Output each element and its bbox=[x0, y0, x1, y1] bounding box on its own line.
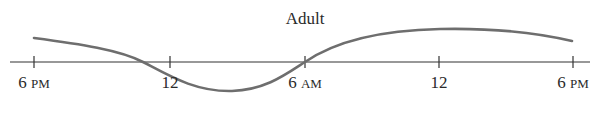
x-tick-labels: 6 PM 12 6 AM 12 6 PM bbox=[18, 73, 589, 92]
chart-title: Adult bbox=[286, 9, 325, 28]
tick-label-6pm-start: 6 PM bbox=[18, 73, 50, 92]
tick-label-noon: 12 bbox=[431, 73, 448, 92]
tick-label-6pm-end: 6 PM bbox=[557, 73, 589, 92]
tick-label-6am: 6 AM bbox=[288, 73, 322, 92]
circadian-chart: Adult 6 PM 12 6 AM 12 6 PM bbox=[0, 0, 602, 116]
tick-label-midnight: 12 bbox=[162, 73, 179, 92]
